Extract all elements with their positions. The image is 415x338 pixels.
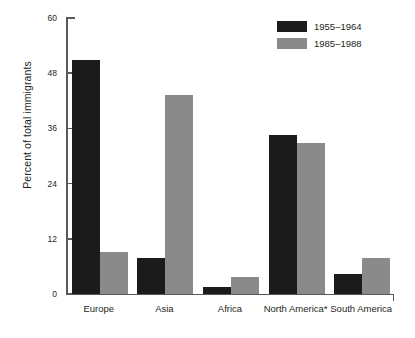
x-axis-category-label: Africa bbox=[197, 303, 263, 314]
bar bbox=[334, 274, 362, 294]
bar bbox=[297, 143, 325, 294]
y-axis-tick-label: 36 bbox=[0, 123, 57, 133]
legend-swatch-gray bbox=[277, 38, 307, 49]
bar bbox=[165, 95, 193, 294]
x-axis-category-label: North America* bbox=[263, 303, 329, 314]
y-axis-tick-label: 48 bbox=[0, 68, 57, 78]
bar bbox=[137, 258, 165, 294]
bar bbox=[231, 277, 259, 294]
y-axis-tick-label: 24 bbox=[0, 179, 57, 189]
bar bbox=[203, 287, 231, 294]
y-axis-tick-label: 12 bbox=[0, 234, 57, 244]
x-axis-end-tick bbox=[393, 294, 395, 301]
chart-legend: 1955–19641985–1988 bbox=[277, 19, 362, 53]
bar bbox=[362, 258, 390, 294]
bar bbox=[269, 135, 297, 294]
x-axis-category-label: South America bbox=[328, 303, 394, 314]
bar bbox=[100, 252, 128, 294]
x-axis-category-label: Asia bbox=[132, 303, 198, 314]
y-axis-line bbox=[66, 17, 68, 295]
legend-entry-label: 1955–1964 bbox=[314, 21, 362, 32]
legend-swatch-dark bbox=[277, 21, 307, 32]
bar bbox=[72, 60, 100, 294]
y-axis-tick-label: 0 bbox=[0, 289, 57, 299]
legend-entry: 1955–1964 bbox=[277, 19, 362, 33]
y-axis-tick-label: 60 bbox=[0, 13, 57, 23]
legend-entry-label: 1985–1988 bbox=[314, 38, 362, 49]
y-axis-tick bbox=[68, 17, 75, 19]
legend-entry: 1985–1988 bbox=[277, 36, 362, 50]
bar-chart: Percent of total immigrants 01224364860 … bbox=[0, 0, 415, 338]
x-axis-category-label: Europe bbox=[66, 303, 132, 314]
